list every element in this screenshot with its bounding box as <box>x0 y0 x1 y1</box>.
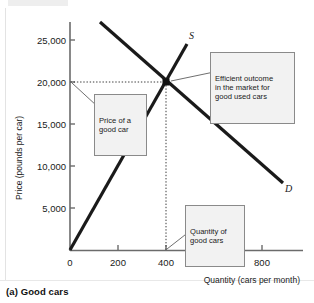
efficient-callout-text: Efficient outcome in the market for good… <box>215 74 290 102</box>
x-tick-label-400: 400 <box>158 257 174 268</box>
price-of-good-car-callout: Price of a good car <box>94 94 147 156</box>
y-axis-title: Price (pounds per car) <box>14 116 24 200</box>
supply-demand-chart: 25,000 20,000 15,000 10,000 5,000 0 200 … <box>0 0 314 303</box>
quantity-of-good-cars-callout: Quantity of good cars <box>185 205 245 267</box>
y-tick-label-5000: 5,000 <box>42 203 66 214</box>
x-axis-title: Quantity (cars per month) <box>204 275 301 285</box>
y-tick-label-10000: 10,000 <box>37 161 66 172</box>
figure-good-cars: 25,000 20,000 15,000 10,000 5,000 0 200 … <box>0 0 314 303</box>
equilibrium-marker <box>163 79 170 86</box>
y-tick-label-20000: 20,000 <box>37 77 66 88</box>
x-tick-label-200: 200 <box>110 257 126 268</box>
y-tick-label-15000: 15,000 <box>37 119 66 130</box>
quantity-callout-text: Quantity of good cars <box>190 227 240 245</box>
demand-curve-label: D <box>284 183 293 194</box>
x-tick-label-800: 800 <box>254 257 270 268</box>
price-callout-text: Price of a good car <box>99 116 142 134</box>
efficient-outcome-callout: Efficient outcome in the market for good… <box>210 52 295 124</box>
efficient-callout-leader <box>171 72 214 81</box>
figure-caption: (a) Good cars <box>6 286 69 297</box>
supply-curve-label: S <box>189 30 194 41</box>
x-tick-label-0: 0 <box>67 257 72 268</box>
y-tick-label-25000: 25,000 <box>37 35 66 46</box>
